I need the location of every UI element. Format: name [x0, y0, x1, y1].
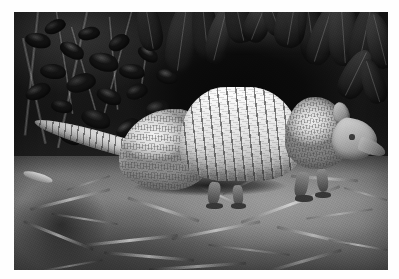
foot: [315, 192, 331, 198]
eye: [349, 134, 355, 140]
leg: [316, 169, 330, 193]
band-speckle: [180, 87, 302, 181]
photograph: [14, 12, 388, 270]
banded-midsection: [180, 87, 302, 181]
foot: [231, 203, 246, 209]
foot: [206, 203, 222, 209]
screenshot-root: [0, 0, 399, 279]
armadillo: [14, 12, 388, 270]
foot: [295, 195, 313, 202]
